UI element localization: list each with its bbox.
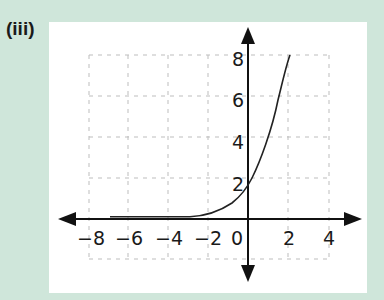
x-tick-labels: −8 −6 −4 −2 0 2 4 bbox=[77, 227, 335, 249]
y-tick: 4 bbox=[232, 131, 244, 153]
y-tick: 8 bbox=[232, 48, 244, 70]
x-tick: 2 bbox=[283, 227, 295, 249]
x-tick: 0 bbox=[231, 227, 243, 249]
x-tick: 4 bbox=[323, 227, 335, 249]
y-tick: 6 bbox=[232, 89, 244, 111]
y-tick: 2 bbox=[232, 173, 244, 195]
x-tick: −8 bbox=[77, 227, 105, 249]
exponential-curve bbox=[110, 55, 290, 217]
x-tick: −6 bbox=[115, 227, 143, 249]
y-axis-up-arrow-icon bbox=[241, 27, 255, 44]
y-axis-down-arrow-icon bbox=[241, 265, 255, 282]
exponential-chart: −8 −6 −4 −2 0 2 4 2 4 6 8 bbox=[0, 0, 384, 300]
x-axis-left-arrow-icon bbox=[58, 212, 76, 226]
x-tick: −2 bbox=[194, 227, 222, 249]
x-axis-right-arrow-icon bbox=[344, 212, 362, 226]
y-tick-labels: 2 4 6 8 bbox=[232, 48, 244, 195]
x-tick: −4 bbox=[155, 227, 183, 249]
